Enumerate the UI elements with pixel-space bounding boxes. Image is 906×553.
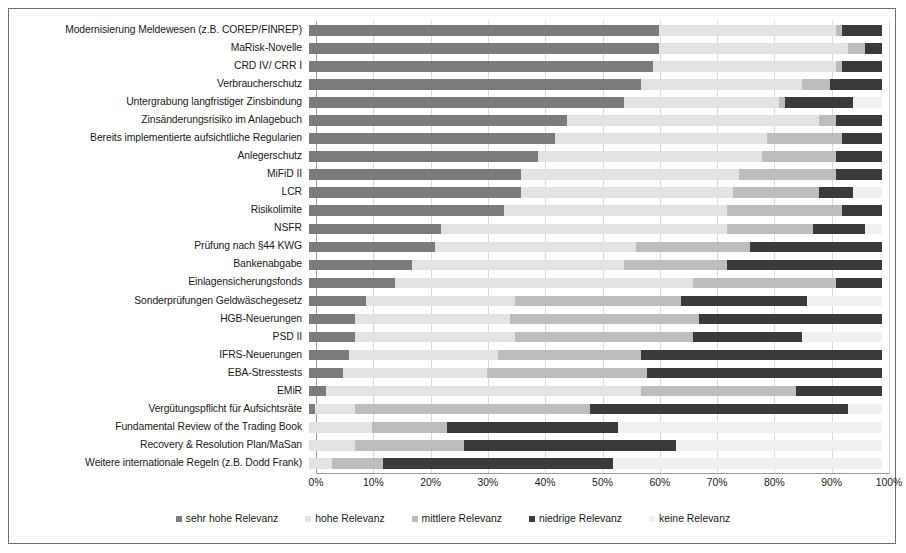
stacked-bar[interactable] [309,332,882,343]
bar-segment-3[interactable] [842,61,882,72]
stacked-bar[interactable] [309,440,882,451]
bar-segment-3[interactable] [785,97,854,108]
bar-segment-0[interactable] [309,314,355,325]
bar-segment-1[interactable] [412,260,624,271]
bar-segment-2[interactable] [515,296,681,307]
bar-segment-2[interactable] [372,422,446,433]
bar-segment-0[interactable] [309,133,555,144]
bar-segment-1[interactable] [309,440,355,451]
stacked-bar[interactable] [309,458,882,469]
bar-segment-0[interactable] [309,169,521,180]
stacked-bar[interactable] [309,224,882,235]
bar-segment-4[interactable] [618,422,882,433]
bar-segment-2[interactable] [636,242,751,253]
stacked-bar[interactable] [309,386,882,397]
bar-segment-1[interactable] [326,386,641,397]
bar-segment-4[interactable] [807,296,881,307]
stacked-bar[interactable] [309,205,882,216]
bar-segment-2[interactable] [762,151,836,162]
bar-segment-1[interactable] [355,314,510,325]
bar-segment-4[interactable] [802,332,882,343]
bar-segment-1[interactable] [659,25,837,36]
bar-segment-1[interactable] [355,332,515,343]
bar-segment-0[interactable] [309,115,567,126]
bar-segment-3[interactable] [842,205,882,216]
bar-segment-2[interactable] [727,205,842,216]
stacked-bar[interactable] [309,350,882,361]
bar-segment-4[interactable] [865,224,882,235]
bar-segment-2[interactable] [767,133,841,144]
bar-segment-1[interactable] [641,79,801,90]
bar-segment-2[interactable] [332,458,384,469]
bar-segment-1[interactable] [309,422,372,433]
bar-segment-0[interactable] [309,79,641,90]
bar-segment-0[interactable] [309,205,504,216]
bar-segment-1[interactable] [349,350,498,361]
stacked-bar[interactable] [309,187,882,198]
bar-segment-3[interactable] [836,115,882,126]
bar-segment-0[interactable] [309,296,366,307]
bar-segment-1[interactable] [555,133,767,144]
bar-segment-3[interactable] [727,260,882,271]
bar-segment-3[interactable] [464,440,676,451]
bar-segment-0[interactable] [309,97,624,108]
bar-segment-3[interactable] [830,79,882,90]
stacked-bar[interactable] [309,25,882,36]
bar-segment-3[interactable] [681,296,807,307]
bar-segment-2[interactable] [693,278,836,289]
bar-segment-4[interactable] [613,458,882,469]
bar-segment-1[interactable] [659,43,848,54]
bar-segment-0[interactable] [309,224,441,235]
bar-segment-3[interactable] [842,133,882,144]
legend-item[interactable]: keine Relevanz [649,513,730,524]
bar-segment-3[interactable] [836,151,882,162]
bar-segment-0[interactable] [309,278,395,289]
stacked-bar[interactable] [309,61,882,72]
bar-segment-1[interactable] [504,205,727,216]
stacked-bar[interactable] [309,368,882,379]
bar-segment-1[interactable] [653,61,836,72]
bar-segment-0[interactable] [309,151,538,162]
bar-segment-0[interactable] [309,368,343,379]
stacked-bar[interactable] [309,296,882,307]
bar-segment-0[interactable] [309,386,326,397]
stacked-bar[interactable] [309,278,882,289]
bar-segment-1[interactable] [521,187,733,198]
bar-segment-1[interactable] [366,296,515,307]
bar-segment-0[interactable] [309,187,521,198]
bar-segment-2[interactable] [487,368,647,379]
bar-segment-2[interactable] [510,314,699,325]
legend-item[interactable]: niedrige Relevanz [529,513,622,524]
bar-segment-3[interactable] [836,169,882,180]
bar-segment-2[interactable] [624,260,727,271]
bar-segment-2[interactable] [819,115,836,126]
bar-segment-4[interactable] [676,440,882,451]
stacked-bar[interactable] [309,422,882,433]
legend-item[interactable]: sehr hohe Relevanz [176,513,278,524]
bar-segment-0[interactable] [309,25,659,36]
bar-segment-2[interactable] [498,350,641,361]
bar-segment-0[interactable] [309,242,435,253]
stacked-bar[interactable] [309,404,882,415]
stacked-bar[interactable] [309,314,882,325]
bar-segment-3[interactable] [836,278,882,289]
bar-segment-3[interactable] [590,404,848,415]
stacked-bar[interactable] [309,43,882,54]
bar-segment-3[interactable] [796,386,882,397]
stacked-bar[interactable] [309,242,882,253]
bar-segment-1[interactable] [521,169,739,180]
bar-segment-1[interactable] [567,115,819,126]
bar-segment-3[interactable] [813,224,865,235]
bar-segment-1[interactable] [309,458,332,469]
bar-segment-4[interactable] [853,97,882,108]
bar-segment-0[interactable] [309,61,653,72]
bar-segment-3[interactable] [842,25,882,36]
bar-segment-1[interactable] [624,97,779,108]
bar-segment-1[interactable] [395,278,693,289]
bar-segment-1[interactable] [538,151,761,162]
bar-segment-3[interactable] [819,187,853,198]
bar-segment-0[interactable] [309,350,349,361]
bar-segment-0[interactable] [309,260,412,271]
bar-segment-3[interactable] [383,458,612,469]
legend-item[interactable]: hohe Relevanz [305,513,384,524]
